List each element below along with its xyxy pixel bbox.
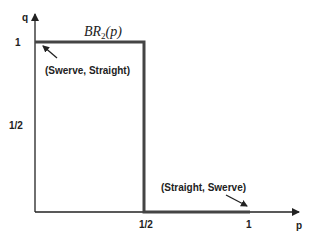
- annotation-straight-swerve: (Straight, Swerve): [161, 182, 246, 193]
- best-response-chart: q p 1 1/2 1/2 1 BR2(p) (Swerve, Straight…: [0, 0, 315, 238]
- y-tick-half: 1/2: [9, 120, 23, 131]
- x-tick-half: 1/2: [139, 219, 153, 230]
- x-tick-1: 1: [246, 219, 252, 230]
- curve-title: BR2(p): [84, 24, 122, 41]
- annotation-swerve-straight: (Swerve, Straight): [45, 65, 130, 76]
- x-axis-label: p: [296, 220, 302, 231]
- annotation-arrow-swerve-straight: [43, 46, 57, 58]
- annotation-arrow-straight-swerve: [226, 195, 247, 206]
- y-tick-1: 1: [15, 37, 21, 48]
- y-axis-label: q: [22, 12, 28, 23]
